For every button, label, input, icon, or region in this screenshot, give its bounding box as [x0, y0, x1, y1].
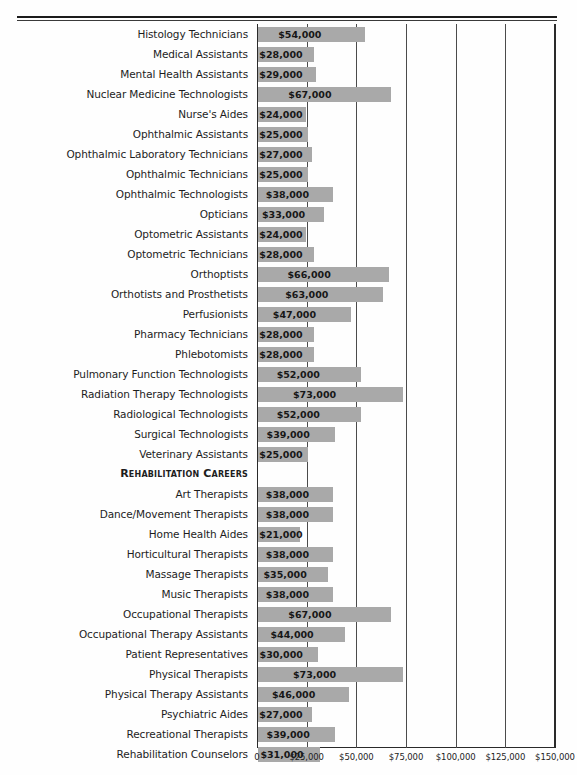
category-label: Radiological Technologists	[113, 404, 248, 424]
category-label: Optometric Assistants	[134, 224, 248, 244]
bar-row: Nuclear Medicine Technologists$67,000	[0, 84, 577, 104]
x-tick-label-25000: $25,000	[289, 752, 323, 762]
category-label: Ophthalmic Laboratory Technicians	[66, 144, 248, 164]
bar-row: Music Therapists$38,000	[0, 584, 577, 604]
bar-row: Physical Therapists$73,000	[0, 664, 577, 684]
x-axis-tick-labels: 0$25,000$50,000$75,000$100,000$125,000$1…	[0, 752, 577, 768]
bar-value-label: $39,000	[258, 427, 318, 442]
category-label: Occupational Therapy Assistants	[79, 624, 248, 644]
bar-row: Home Health Aides$21,000	[0, 524, 577, 544]
category-label: Recreational Therapists	[127, 724, 248, 744]
category-label: Nurse's Aides	[178, 104, 248, 124]
category-label: Dance/Movement Therapists	[100, 504, 248, 524]
bar-row: Psychiatric Aides$27,000	[0, 704, 577, 724]
category-label: Phlebotomists	[175, 344, 248, 364]
category-label: Pharmacy Technicians	[134, 324, 248, 344]
category-label: Histology Technicians	[137, 24, 248, 44]
bar-value-label: $63,000	[258, 287, 356, 302]
bar-value-label: $24,000	[258, 107, 304, 122]
category-label: Ophthalmic Assistants	[133, 124, 248, 144]
bar-row: Occupational Therapists$67,000	[0, 604, 577, 624]
category-label: Psychiatric Aides	[161, 704, 248, 724]
bar-value-label: $28,000	[258, 327, 304, 342]
category-label: Nuclear Medicine Technologists	[86, 84, 248, 104]
bar-value-label: $29,000	[258, 67, 304, 82]
bar-value-label: $67,000	[258, 87, 362, 102]
bar-row: Recreational Therapists$39,000	[0, 724, 577, 744]
bar-value-label: $35,000	[258, 567, 312, 582]
bar-row: Radiation Therapy Technologists$73,000	[0, 384, 577, 404]
bar-value-label: $28,000	[258, 247, 304, 262]
section-heading-row: Rehabilitation Careers	[0, 464, 577, 484]
category-label: Music Therapists	[161, 584, 248, 604]
category-label: Ophthalmic Technicians	[126, 164, 248, 184]
bar-value-label: $38,000	[258, 547, 317, 562]
bar-row: Art Therapists$38,000	[0, 484, 577, 504]
category-label: Physical Therapists	[149, 664, 248, 684]
bar-value-label: $47,000	[258, 307, 331, 322]
bar-row: Phlebotomists$28,000	[0, 344, 577, 364]
bar-row: Optometric Assistants$24,000	[0, 224, 577, 244]
bar-row: Histology Technicians$54,000	[0, 24, 577, 44]
bar-value-label: $38,000	[258, 487, 317, 502]
bar-value-label: $27,000	[258, 147, 304, 162]
bar-row: Orthotists and Prosthetists$63,000	[0, 284, 577, 304]
bar-row: Ophthalmic Assistants$25,000	[0, 124, 577, 144]
bar-row: Optometric Technicians$28,000	[0, 244, 577, 264]
bar-value-label: $24,000	[258, 227, 304, 242]
bar-row: Pharmacy Technicians$28,000	[0, 324, 577, 344]
x-tick-label-100000: $100,000	[436, 752, 476, 762]
category-label: Mental Health Assistants	[120, 64, 248, 84]
category-label: Pulmonary Function Technologists	[73, 364, 248, 384]
bar-value-label: $25,000	[258, 167, 304, 182]
category-label: Home Health Aides	[149, 524, 248, 544]
bar-row: Opticians$33,000	[0, 204, 577, 224]
bar-row: Pulmonary Function Technologists$52,000	[0, 364, 577, 384]
section-heading-text: Rehabilitation Careers	[120, 467, 248, 480]
bar-row: Surgical Technologists$39,000	[0, 424, 577, 444]
bar-value-label: $38,000	[258, 587, 317, 602]
bar-row: Ophthalmic Technologists$38,000	[0, 184, 577, 204]
category-label: Patient Representatives	[126, 644, 248, 664]
bar-value-label: $38,000	[258, 187, 317, 202]
x-tick-label-125000: $125,000	[485, 752, 525, 762]
bar-row: Nurse's Aides$24,000	[0, 104, 577, 124]
bar-row: Ophthalmic Laboratory Technicians$27,000	[0, 144, 577, 164]
category-label: Horticultural Therapists	[127, 544, 248, 564]
bar-row: Occupational Therapy Assistants$44,000	[0, 624, 577, 644]
bar-value-label: $25,000	[258, 127, 304, 142]
category-label: Occupational Therapists	[123, 604, 248, 624]
bar-value-label: $44,000	[258, 627, 326, 642]
bar-row: Medical Assistants$28,000	[0, 44, 577, 64]
x-tick-label-0: 0	[254, 752, 259, 762]
category-label: Physical Therapy Assistants	[105, 684, 248, 704]
bar-value-label: $54,000	[258, 27, 342, 42]
category-label: Medical Assistants	[153, 44, 248, 64]
bar-row: Patient Representatives$30,000	[0, 644, 577, 664]
bar-row: Orthoptists$66,000	[0, 264, 577, 284]
category-label: Surgical Technologists	[134, 424, 248, 444]
bar-value-label: $33,000	[258, 207, 309, 222]
bar-row: Dance/Movement Therapists$38,000	[0, 504, 577, 524]
bar-row: Ophthalmic Technicians$25,000	[0, 164, 577, 184]
bar-row: Horticultural Therapists$38,000	[0, 544, 577, 564]
bar-rows: Histology Technicians$54,000Medical Assi…	[0, 24, 577, 764]
bar-value-label: $27,000	[258, 707, 304, 722]
category-label: Massage Therapists	[146, 564, 248, 584]
bar-value-label: $38,000	[258, 507, 317, 522]
x-tick-label-50000: $50,000	[339, 752, 373, 762]
bar-value-label: $39,000	[258, 727, 318, 742]
bar-row: Veterinary Assistants$25,000	[0, 444, 577, 464]
category-label: Perfusionists	[183, 304, 248, 324]
x-tick-label-75000: $75,000	[389, 752, 423, 762]
category-label: Veterinary Assistants	[139, 444, 248, 464]
bar-value-label: $67,000	[258, 607, 362, 622]
section-heading-label: Rehabilitation Careers	[120, 464, 248, 484]
bar-value-label: $46,000	[258, 687, 329, 702]
category-label: Ophthalmic Technologists	[116, 184, 248, 204]
bar-value-label: $30,000	[258, 647, 304, 662]
category-label: Optometric Technicians	[127, 244, 248, 264]
bar-value-label: $21,000	[258, 527, 304, 542]
bar-row: Physical Therapy Assistants$46,000	[0, 684, 577, 704]
category-label: Radiation Therapy Technologists	[81, 384, 248, 404]
